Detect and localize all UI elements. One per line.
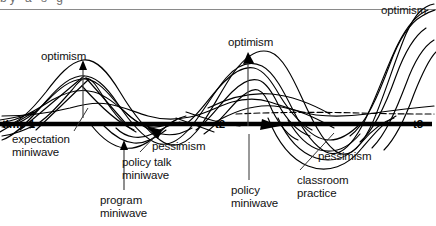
- diagram-canvas: [0, 0, 436, 226]
- label-expectation-miniwave: expectation miniwave: [12, 133, 70, 159]
- label-optimism-left: optimism: [41, 50, 86, 63]
- axis-tick-t2: t2: [215, 118, 225, 130]
- label-optimism-mid: optimism: [228, 36, 273, 49]
- label-program-miniwave: program miniwave: [100, 194, 147, 220]
- curve-chord-left-down: [86, 78, 128, 126]
- label-optimism-right: optimism: [381, 4, 426, 17]
- label-pessimism-right: pessimism: [318, 150, 371, 163]
- expectation-leader-line: [74, 108, 88, 131]
- curve-right-rise-3: [372, 40, 434, 148]
- curve-flat-ripple: [2, 99, 434, 119]
- waves-of-reform-diagram: by a s g time 1 t2 t3 optimism optimism …: [0, 0, 436, 226]
- label-policy-miniwave: policy miniwave: [231, 184, 278, 210]
- curve-dashed-midline: [236, 112, 434, 114]
- label-pessimism-left: pessimism: [152, 140, 205, 153]
- curve-right-rise-4: [384, 52, 436, 150]
- label-classroom-practice: classroom practice: [297, 174, 349, 200]
- axis-tick-t3: t3: [413, 118, 423, 130]
- cut-off-header-text: by a s g: [0, 0, 66, 5]
- label-policy-talk-miniwave: policy talk miniwave: [122, 156, 171, 182]
- axis-tick-time-1: time 1: [2, 118, 35, 130]
